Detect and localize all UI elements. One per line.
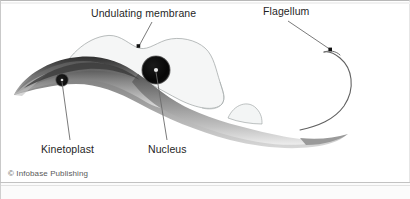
label-flagellum: Flagellum xyxy=(263,6,309,17)
nucleus-shape xyxy=(142,56,170,84)
footer-left-edge xyxy=(0,183,1,199)
label-nucleus: Nucleus xyxy=(148,144,187,155)
copyright-credit: © Infobase Publishing xyxy=(8,169,88,178)
leader-dot-flagellum xyxy=(328,48,332,52)
label-undulating-membrane: Undulating membrane xyxy=(91,8,196,19)
leader-undulating-membrane xyxy=(139,22,152,46)
footer-rule xyxy=(0,185,410,186)
leader-kinetoplast xyxy=(62,82,70,140)
footer-strip xyxy=(0,182,410,199)
label-kinetoplast: Kinetoplast xyxy=(41,144,94,155)
flagellum-shape xyxy=(300,51,351,130)
leader-flagellum xyxy=(288,21,331,50)
leader-dot-undulating-membrane xyxy=(137,44,141,48)
figure-panel: Undulating membrane Flagellum Kinetoplas… xyxy=(0,0,410,199)
